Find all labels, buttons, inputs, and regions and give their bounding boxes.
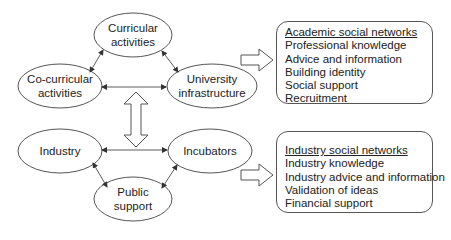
label-line: Industry	[18, 144, 102, 158]
edge-curricular-university	[162, 51, 178, 72]
label-incubators: Incubators	[168, 144, 252, 158]
box-item: Validation of ideas	[285, 184, 426, 197]
label-line: activities	[94, 35, 172, 49]
box-title: Academic social networks	[285, 26, 426, 39]
box-item: Building identity	[285, 66, 426, 79]
label-line: activities	[18, 86, 102, 100]
academic-social-networks-box: Academic social networks Professional kn…	[276, 21, 433, 104]
edge-industry-public	[93, 163, 107, 187]
label-public-support: Public support	[94, 185, 172, 213]
box-item: Professional knowledge	[285, 39, 426, 52]
industry-social-networks-box: Industry social networks Industry knowle…	[276, 131, 433, 213]
hollow-arrow-to-industry	[241, 164, 273, 186]
label-university-infrastructure: University infrastructure	[167, 72, 257, 100]
label-line: support	[94, 199, 172, 213]
label-line: Co-curricular	[18, 72, 102, 86]
box-item: Recruitment	[285, 92, 426, 105]
box-item: Social support	[285, 79, 426, 92]
label-curricular-activities: Curricular activities	[94, 21, 172, 49]
box-item: Advice and information	[285, 53, 426, 66]
label-industry: Industry	[18, 144, 102, 158]
label-line: infrastructure	[167, 86, 257, 100]
box-item: Industry knowledge	[285, 157, 426, 170]
label-line: Curricular	[94, 21, 172, 35]
label-line: Public	[94, 185, 172, 199]
label-line: University	[167, 72, 257, 86]
hollow-arrow-to-academic	[241, 49, 273, 71]
box-title: Industry social networks	[285, 144, 426, 157]
box-item: Financial support	[285, 197, 426, 210]
label-line: Incubators	[168, 144, 252, 158]
box-item: Industry advice and information	[285, 171, 426, 184]
label-co-curricular-activities: Co-curricular activities	[18, 72, 102, 100]
edge-curricular-cocurricular	[90, 50, 103, 72]
hollow-double-arrow-vertical	[124, 92, 148, 147]
